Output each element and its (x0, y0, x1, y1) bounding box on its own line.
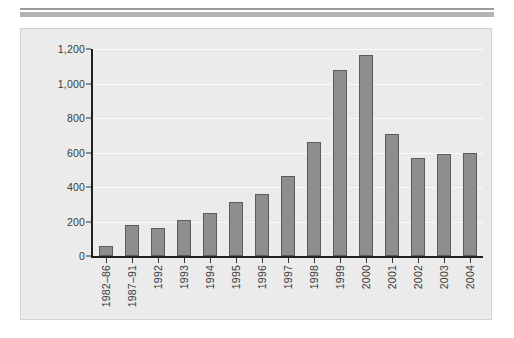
x-tick-label: 1982–86 (100, 265, 112, 307)
y-tick-label: 200 (67, 216, 85, 228)
bar-slot (249, 49, 275, 256)
bar-slot (353, 49, 379, 256)
bar-1995[interactable] (229, 202, 243, 256)
x-tick-mark (106, 258, 107, 263)
top-rule-thick (20, 12, 494, 17)
x-tick-mark (392, 258, 393, 263)
x-label-slot: 2000 (353, 265, 379, 317)
x-tick-slot (327, 258, 353, 263)
x-label-slot: 2003 (431, 265, 457, 317)
x-tick-label: 2002 (412, 265, 424, 289)
x-tick-label: 2004 (464, 265, 476, 289)
bar-1982–86[interactable] (99, 246, 113, 256)
x-label-slot: 2001 (379, 265, 405, 317)
y-tick-label: 1,200 (58, 43, 85, 55)
x-tick-label: 1994 (204, 265, 216, 289)
x-tick-slot (171, 258, 197, 263)
bar-slot (379, 49, 405, 256)
x-tick-slot (379, 258, 405, 263)
x-label-slot: 1996 (249, 265, 275, 317)
x-tick-slot (145, 258, 171, 263)
x-label-slot: 1993 (171, 265, 197, 317)
x-tick-slot (275, 258, 301, 263)
x-tick-label: 2001 (386, 265, 398, 289)
x-label-slot: 1999 (327, 265, 353, 317)
bar-2001[interactable] (385, 134, 399, 256)
x-tick-slot (119, 258, 145, 263)
x-tick-label: 2000 (360, 265, 372, 289)
bar-2000[interactable] (359, 55, 373, 256)
bar-slot (405, 49, 431, 256)
x-tick-slot (223, 258, 249, 263)
y-tick-label: 1,000 (58, 78, 85, 90)
decorative-top-rules (20, 8, 494, 17)
x-label-slot: 1998 (301, 265, 327, 317)
x-tick-mark (288, 258, 289, 263)
x-tick-slot (249, 258, 275, 263)
x-label-slot: 1995 (223, 265, 249, 317)
x-tick-mark (470, 258, 471, 263)
x-label-slot: 1994 (197, 265, 223, 317)
x-tick-label: 1995 (230, 265, 242, 289)
bar-slot (197, 49, 223, 256)
y-tick-label: 800 (67, 112, 85, 124)
x-tick-mark (210, 258, 211, 263)
bar-1999[interactable] (333, 70, 347, 256)
x-tick-slot (93, 258, 119, 263)
x-tick-label: 1998 (308, 265, 320, 289)
bar-1996[interactable] (255, 194, 269, 256)
y-tick-label: 400 (67, 181, 85, 193)
plot-area (93, 49, 483, 256)
x-tick-mark (340, 258, 341, 263)
x-tick-mark (418, 258, 419, 263)
x-tick-label: 1993 (178, 265, 190, 289)
bar-1993[interactable] (177, 220, 191, 256)
x-label-slot: 1997 (275, 265, 301, 317)
x-tick-mark (158, 258, 159, 263)
bar-1987–91[interactable] (125, 225, 139, 256)
bar-2003[interactable] (437, 154, 451, 256)
x-tick-slot (353, 258, 379, 263)
x-label-slot: 2004 (457, 265, 483, 317)
x-tick-label: 1996 (256, 265, 268, 289)
x-axis-tick-marks (93, 258, 483, 263)
bar-slot (275, 49, 301, 256)
bar-series (93, 49, 483, 256)
x-tick-mark (366, 258, 367, 263)
x-tick-mark (184, 258, 185, 263)
bar-1992[interactable] (151, 228, 165, 256)
bar-1997[interactable] (281, 176, 295, 256)
bar-slot (431, 49, 457, 256)
bar-slot (301, 49, 327, 256)
x-label-slot: 1987–91 (119, 265, 145, 317)
x-label-slot: 1992 (145, 265, 171, 317)
x-tick-label: 1987–91 (126, 265, 138, 307)
bar-slot (457, 49, 483, 256)
x-tick-label: 2003 (438, 265, 450, 289)
y-tick-label: 600 (67, 147, 85, 159)
bar-2002[interactable] (411, 158, 425, 256)
bar-2004[interactable] (463, 153, 477, 256)
bar-chart: 02004006008001,0001,200 1982–861987–9119… (21, 29, 493, 321)
bar-1994[interactable] (203, 213, 217, 256)
x-tick-mark (444, 258, 445, 263)
x-axis-tick-labels: 1982–861987–9119921993199419951996199719… (93, 265, 483, 317)
bar-slot (145, 49, 171, 256)
x-tick-label: 1999 (334, 265, 346, 289)
x-tick-label: 1992 (152, 265, 164, 289)
bar-slot (327, 49, 353, 256)
x-tick-slot (197, 258, 223, 263)
bar-slot (119, 49, 145, 256)
x-tick-mark (314, 258, 315, 263)
x-tick-slot (301, 258, 327, 263)
x-tick-slot (431, 258, 457, 263)
y-tick-label: 0 (79, 250, 85, 262)
x-tick-label: 1997 (282, 265, 294, 289)
bar-slot (223, 49, 249, 256)
y-axis-tick-labels: 02004006008001,0001,200 (29, 29, 91, 321)
bar-slot (171, 49, 197, 256)
x-tick-mark (236, 258, 237, 263)
bar-slot (93, 49, 119, 256)
bar-1998[interactable] (307, 142, 321, 256)
chart-panel: 02004006008001,0001,200 1982–861987–9119… (20, 28, 492, 320)
